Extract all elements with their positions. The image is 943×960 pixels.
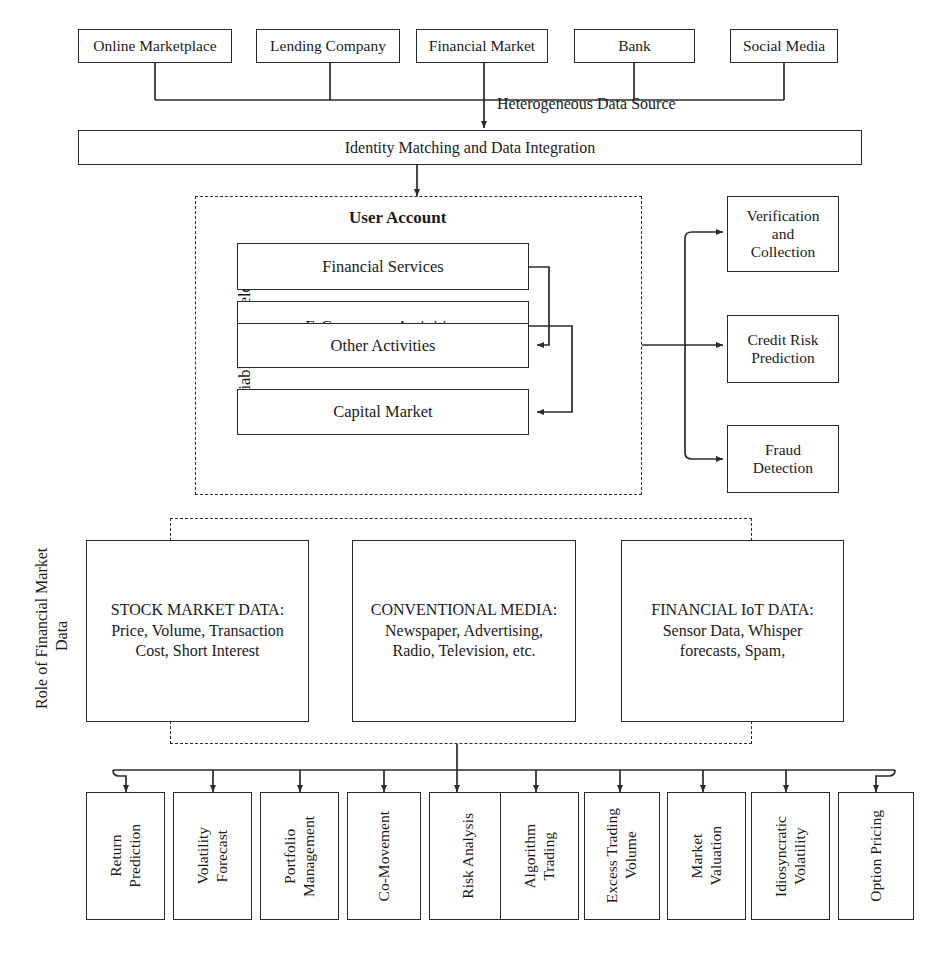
outcome-box-portfolio-management[interactable]: Portfolio Management <box>260 792 339 920</box>
field-box-other-activities[interactable]: Other Activities <box>237 323 529 368</box>
data-box-stock-market-data[interactable]: STOCK MARKET DATA: Price, Volume, Transa… <box>86 540 309 722</box>
outcome-label: Return Prediction <box>107 824 145 888</box>
outcome-label: Volatility Forecast <box>194 827 232 884</box>
outcome-label: Algorithm Trading <box>521 824 559 889</box>
data-box-financial-iot-data[interactable]: FINANCIAL IoT DATA: Sensor Data, Whisper… <box>621 540 844 722</box>
outcome-box-algorithm-trading[interactable]: Algorithm Trading <box>500 792 579 920</box>
application-label: Credit Risk Prediction <box>747 331 818 368</box>
heterogeneous-data-source-label: Heterogeneous Data Source <box>497 95 676 113</box>
outcome-box-risk-analysis[interactable]: Risk Analysis <box>429 792 508 920</box>
outcome-box-co-movement[interactable]: Co-Movement <box>347 792 421 920</box>
outcome-label: Market Valuation <box>688 826 726 885</box>
source-box-lending-company[interactable]: Lending Company <box>256 29 400 63</box>
outcome-label: Option Pricing <box>867 810 886 902</box>
source-box-online-marketplace[interactable]: Online Marketplace <box>78 29 232 63</box>
role-of-financial-market-data-label: Role of Financial Market Data <box>12 536 92 736</box>
source-label: Lending Company <box>270 37 386 55</box>
diagram-canvas: Online Marketplace Lending Company Finan… <box>0 0 943 960</box>
source-box-bank[interactable]: Bank <box>574 29 695 63</box>
field-label: Financial Services <box>322 257 443 277</box>
field-box-financial-services[interactable]: Financial Services <box>237 243 529 290</box>
outcome-box-option-pricing[interactable]: Option Pricing <box>838 792 914 920</box>
outcome-box-volatility-forecast[interactable]: Volatility Forecast <box>173 792 252 920</box>
field-label: Other Activities <box>331 336 436 356</box>
identity-matching-label: Identity Matching and Data Integration <box>345 139 596 157</box>
data-box-heading: STOCK MARKET DATA: <box>111 600 284 621</box>
outcome-label: Excess Trading Volume <box>603 808 641 903</box>
outcome-box-excess-trading-volume[interactable]: Excess Trading Volume <box>584 792 660 920</box>
data-box-heading: FINANCIAL IoT DATA: <box>651 600 813 621</box>
source-label: Financial Market <box>429 37 535 55</box>
data-box-body: Price, Volume, Transaction Cost, Short I… <box>111 621 284 663</box>
identity-matching-box[interactable]: Identity Matching and Data Integration <box>78 130 862 165</box>
application-box-verification-and-collection[interactable]: Verification and Collection <box>727 196 839 272</box>
outcome-box-idiosyncratic-volatility[interactable]: Idiosyncratic Volatility <box>751 792 830 920</box>
source-box-social-media[interactable]: Social Media <box>730 29 838 63</box>
source-label: Online Marketplace <box>93 37 217 55</box>
application-label: Fraud Detection <box>753 441 813 478</box>
outcome-box-return-prediction[interactable]: Return Prediction <box>86 792 165 920</box>
application-box-fraud-detection[interactable]: Fraud Detection <box>727 425 839 493</box>
source-label: Social Media <box>743 37 825 55</box>
field-box-capital-market[interactable]: Capital Market <box>237 389 529 435</box>
application-label: Verification and Collection <box>746 207 819 262</box>
data-box-body: Newspaper, Advertising, Radio, Televisio… <box>385 621 543 663</box>
outcome-box-market-valuation[interactable]: Market Valuation <box>667 792 746 920</box>
user-account-title: User Account <box>349 208 446 228</box>
field-label: Capital Market <box>333 402 432 422</box>
outcome-label: Risk Analysis <box>459 813 478 899</box>
data-box-conventional-media[interactable]: CONVENTIONAL MEDIA: Newspaper, Advertisi… <box>352 540 576 722</box>
application-box-credit-risk-prediction[interactable]: Credit Risk Prediction <box>727 315 839 383</box>
outcome-label: Idiosyncratic Volatility <box>772 816 810 897</box>
outcome-label: Co-Movement <box>375 811 394 901</box>
outcome-label: Portfolio Management <box>281 816 319 897</box>
source-box-financial-market[interactable]: Financial Market <box>416 29 548 63</box>
data-box-body: Sensor Data, Whisper forecasts, Spam, <box>663 621 803 663</box>
source-label: Bank <box>618 37 651 55</box>
data-box-heading: CONVENTIONAL MEDIA: <box>371 600 558 621</box>
